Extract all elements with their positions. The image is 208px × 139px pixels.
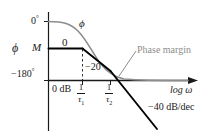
y-axis-zero-degree-symbol: ° (36, 14, 39, 22)
y-axis-phi-symbol: ϕ (12, 42, 18, 54)
magnitude-slope-20-label: −20 (85, 62, 101, 72)
breakpoint-2-denominator-wrap: τ2 (105, 95, 113, 106)
y-axis-minus180-degree-label: −180° (11, 68, 34, 79)
x-axis-log-omega-label: log ω (170, 85, 192, 95)
phase-curve-phi-label: ϕ (79, 18, 85, 29)
y-axis-minus180-value: −180 (11, 68, 32, 79)
phase-margin-leader-line (119, 51, 136, 76)
bode-plot-figure: 0° ϕ M −180° 0 dB log ω 1 τ1 1 τ2 0 −20 … (0, 0, 208, 139)
y-axis-magnitude-M-label: M (32, 42, 41, 53)
horizontal-axis-arrowhead (188, 77, 198, 84)
breakpoint-1-subscript: 1 (81, 100, 84, 106)
y-axis-minus180-degree-symbol: ° (32, 67, 35, 75)
x-axis-origin-0db-label: 0 dB (52, 84, 71, 94)
magnitude-flat-slope-label: 0 (62, 37, 68, 48)
y-axis-zero-degree-label: 0° (31, 15, 39, 26)
breakpoint-1-numerator: 1 (77, 83, 85, 92)
phase-margin-annotation-label: Phase margin (137, 45, 191, 55)
breakpoint-2-subscript: 2 (109, 100, 112, 106)
breakpoint-2-numerator: 1 (105, 83, 113, 92)
breakpoint-1-denominator-wrap: τ1 (77, 95, 85, 106)
breakpoint-1-tick-label: 1 τ1 (77, 83, 85, 106)
magnitude-slope-40-label: −40 dB/dec (148, 102, 194, 112)
breakpoint-2-tick-label: 1 τ2 (105, 83, 113, 106)
